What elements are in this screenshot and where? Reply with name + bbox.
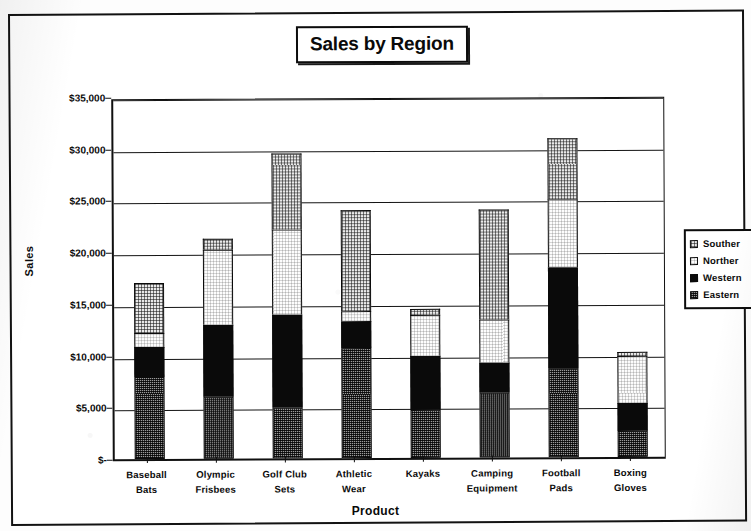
x-axis-tick-mark	[216, 457, 217, 463]
bar-segment-eastern[interactable]	[411, 410, 441, 458]
x-axis-tick-label-line: Olympic	[181, 467, 250, 482]
legend-item-label: Eastern	[703, 289, 739, 300]
bar-segment-northern[interactable]	[272, 230, 302, 315]
bar-segment-western[interactable]	[548, 267, 578, 368]
x-axis-tick-mark	[630, 455, 631, 461]
bar-segment-western[interactable]	[203, 324, 233, 397]
bar-segment-northern[interactable]	[618, 355, 648, 403]
x-axis-tick-label-line: Boxing	[596, 465, 665, 480]
y-axis-tick-label: $35,000	[69, 92, 105, 103]
legend-item-southern[interactable]: Souther	[690, 235, 751, 252]
bar-group[interactable]	[202, 97, 234, 459]
x-axis-tick-labels: BaseballBatsOlympicFrisbeesGolf ClubSets…	[112, 461, 665, 507]
bar-segment-northern[interactable]	[410, 315, 440, 355]
x-axis-tick-label: OlympicFrisbees	[181, 467, 250, 497]
bar-segment-eastern[interactable]	[480, 392, 510, 457]
bar-segment-eastern[interactable]	[134, 377, 164, 459]
bar-segment-southern[interactable]	[134, 283, 164, 333]
x-axis-tick-mark	[146, 457, 147, 463]
bar-segment-western[interactable]	[480, 362, 510, 392]
bar-segment-eastern[interactable]	[618, 431, 648, 457]
legend-item-label: Western	[703, 272, 742, 283]
x-axis-tick-mark	[492, 456, 493, 462]
bar-segment-western[interactable]	[272, 315, 302, 408]
bar-segment-western[interactable]	[618, 403, 648, 431]
x-axis-tick-label: BaseballBats	[112, 467, 181, 497]
x-axis-tick-mark	[285, 456, 286, 462]
legend-swatch-icon	[690, 274, 698, 282]
bar-group[interactable]	[548, 95, 580, 457]
x-axis-tick-label-line: Gloves	[596, 480, 665, 495]
x-axis-tick-label: BoxingGloves	[596, 465, 665, 495]
bar-segment-eastern[interactable]	[549, 368, 579, 457]
bar-segment-southern[interactable]	[341, 210, 371, 311]
x-axis-tick-label-line: Sets	[250, 481, 319, 496]
bar-group[interactable]	[271, 96, 303, 458]
x-axis-tick-label: Golf ClubSets	[250, 466, 319, 496]
legend-item-northern[interactable]: Norther	[690, 252, 751, 269]
bar-segment-southern[interactable]	[203, 238, 233, 250]
bar-segment-southern[interactable]	[618, 351, 648, 355]
x-axis-tick-mark	[423, 456, 424, 462]
bar-segment-southern[interactable]	[271, 153, 301, 230]
page-title: Sales by Region	[310, 33, 454, 56]
y-axis-tick-label: $20,000	[70, 247, 106, 258]
y-axis-title: Sales	[23, 246, 35, 277]
bar-segment-northern[interactable]	[548, 200, 578, 267]
x-axis-tick-label-line: Football	[527, 465, 596, 480]
bar-group[interactable]	[478, 95, 510, 457]
legend-swatch-icon	[690, 257, 698, 265]
x-axis-tick-label-line: Kayaks	[388, 466, 457, 481]
bar-segment-southern[interactable]	[548, 139, 578, 200]
x-axis-tick-label: AthleticWear	[319, 466, 388, 496]
bar-group[interactable]	[409, 96, 441, 458]
y-axis-tick-label: $-	[98, 454, 107, 465]
bar-group[interactable]	[340, 96, 372, 458]
x-axis-tick-label: CampingEquipment	[458, 465, 527, 495]
legend-item-label: Norther	[703, 255, 739, 266]
bar-segment-northern[interactable]	[479, 320, 509, 363]
x-axis-tick-label-line: Camping	[458, 465, 527, 480]
y-axis-tick-label: $10,000	[70, 351, 106, 362]
chart-legend: SoutherNortherWesternEastern	[684, 229, 751, 309]
x-axis-tick-label: FootballPads	[527, 465, 596, 495]
legend-item-eastern[interactable]: Eastern	[690, 286, 751, 303]
x-axis-tick-mark	[354, 456, 355, 462]
chart-screenshot: Sales by Region Sales $-$5,000$10,000$15…	[0, 0, 751, 531]
bar-segment-southern[interactable]	[410, 309, 440, 315]
bar-segment-western[interactable]	[410, 355, 440, 410]
bar-segment-western[interactable]	[134, 347, 164, 377]
x-axis-tick-label-line: Equipment	[458, 480, 527, 495]
bar-segment-eastern[interactable]	[203, 397, 233, 459]
x-axis-tick-label-line: Athletic	[319, 466, 388, 481]
x-axis-tick-mark	[561, 455, 562, 461]
legend-swatch-icon	[690, 240, 698, 248]
bar-segment-northern[interactable]	[134, 333, 164, 348]
legend-item-western[interactable]: Western	[690, 269, 751, 286]
y-axis-tick-label: $25,000	[69, 196, 105, 207]
bar-segment-southern[interactable]	[479, 209, 509, 320]
bar-group[interactable]	[133, 97, 165, 459]
bar-segment-eastern[interactable]	[272, 408, 302, 459]
x-axis-tick-label: Kayaks	[388, 466, 457, 481]
y-axis-tick-label: $5,000	[76, 403, 107, 414]
legend-item-label: Souther	[703, 238, 740, 249]
bar-group[interactable]	[617, 95, 649, 457]
x-axis-tick-label-line: Pads	[527, 480, 596, 495]
bars-layer	[113, 98, 665, 459]
bar-segment-northern[interactable]	[203, 250, 233, 325]
y-axis-tick-labels: $-$5,000$10,000$15,000$20,000$25,000$30,…	[39, 98, 107, 460]
x-axis-tick-label-line: Frisbees	[181, 482, 250, 497]
x-axis-title: Product	[0, 504, 751, 518]
x-axis-tick-label-line: Golf Club	[250, 466, 319, 481]
bar-segment-western[interactable]	[341, 322, 371, 349]
bar-segment-eastern[interactable]	[341, 348, 371, 458]
x-axis-tick-label-line: Bats	[112, 482, 181, 497]
bar-segment-northern[interactable]	[341, 311, 371, 321]
plot-area	[111, 97, 666, 461]
y-axis-tick-label: $30,000	[69, 144, 105, 155]
chart-title-box: Sales by Region	[296, 26, 468, 64]
x-axis-tick-label-line: Wear	[319, 481, 388, 496]
x-axis-tick-label-line: Baseball	[112, 467, 181, 482]
y-axis-tick-label: $15,000	[70, 299, 106, 310]
